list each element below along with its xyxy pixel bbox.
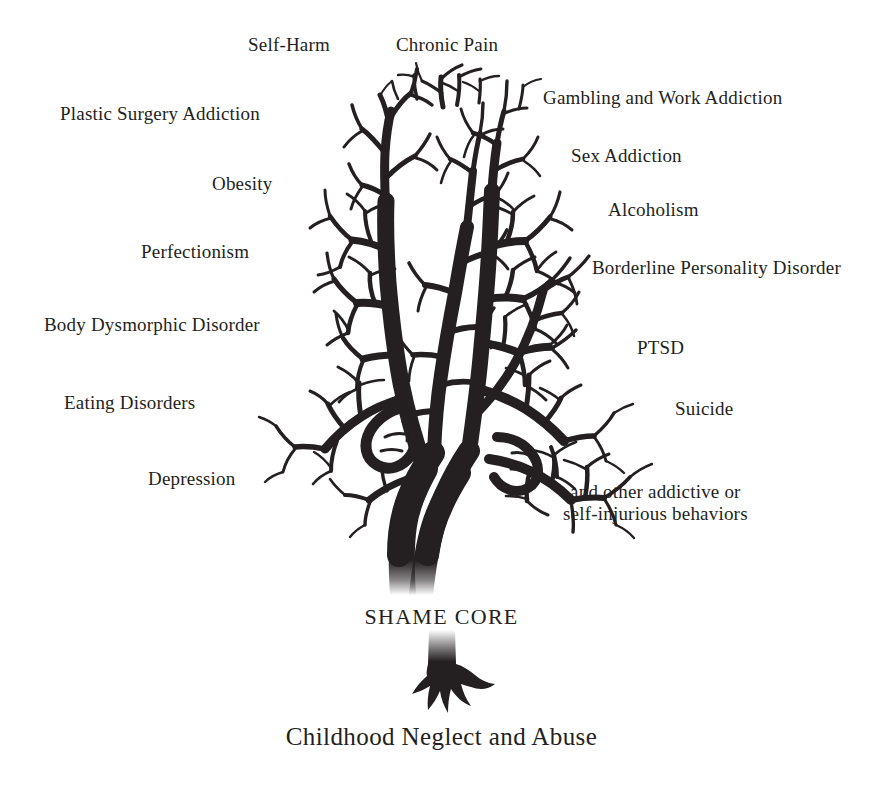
label-eating-disorders: Eating Disorders — [64, 392, 195, 414]
bare-tree-silhouette — [185, 55, 705, 615]
bottom-caption: Childhood Neglect and Abuse — [0, 723, 883, 751]
label-chronic-pain: Chronic Pain — [396, 34, 498, 56]
tree-stump-roots-icon — [383, 630, 501, 722]
label-self-harm: Self-Harm — [248, 34, 330, 56]
shame-core-label: SHAME CORE — [0, 604, 883, 630]
shame-core-tree-diagram: Self-Harm Plastic Surgery Addiction Obes… — [0, 0, 883, 785]
